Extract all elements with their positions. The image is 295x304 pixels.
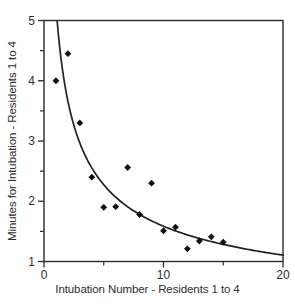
data-point-marker (112, 203, 119, 210)
y-tick-label: 1 (28, 255, 35, 269)
x-tick-label: 10 (157, 268, 171, 282)
data-point-marker (76, 120, 83, 127)
y-tick-label: 5 (28, 14, 35, 28)
data-point-marker (65, 50, 72, 57)
data-point-marker (160, 227, 167, 234)
data-point-marker (53, 77, 60, 84)
fit-curve (57, 21, 283, 256)
x-axis-title: Intubation Number - Residents 1 to 4 (0, 283, 295, 295)
y-tick-label: 3 (28, 134, 35, 148)
intubation-learning-curve-figure: 0102012345 Minutes for Intubation - Resi… (0, 0, 295, 304)
data-point-marker (148, 180, 155, 187)
plot-canvas: 0102012345 (0, 0, 295, 304)
data-point-marker (100, 204, 107, 211)
x-tick-label: 20 (276, 268, 290, 282)
data-point-marker (208, 233, 215, 240)
y-tick-label: 4 (28, 74, 35, 88)
y-axis-title: Minutes for Intubation - Residents 1 to … (6, 51, 18, 241)
data-point-marker (184, 245, 191, 252)
data-point-marker (124, 164, 131, 171)
data-point-marker (88, 174, 95, 181)
y-tick-label: 2 (28, 194, 35, 208)
x-tick-label: 0 (41, 268, 48, 282)
